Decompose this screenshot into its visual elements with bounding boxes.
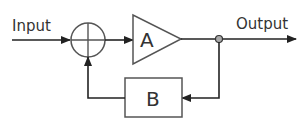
branch-point: [216, 36, 223, 43]
feedback-block-label: B: [146, 87, 160, 111]
feedback-return-arrow: [88, 57, 125, 98]
feedback-diagram: Input A Output B: [0, 0, 305, 131]
output-label: Output: [236, 15, 288, 33]
feedback-path: [182, 42, 219, 98]
input-label: Input: [12, 17, 51, 35]
amplifier-label: A: [140, 28, 154, 52]
summing-junction: [71, 23, 105, 57]
